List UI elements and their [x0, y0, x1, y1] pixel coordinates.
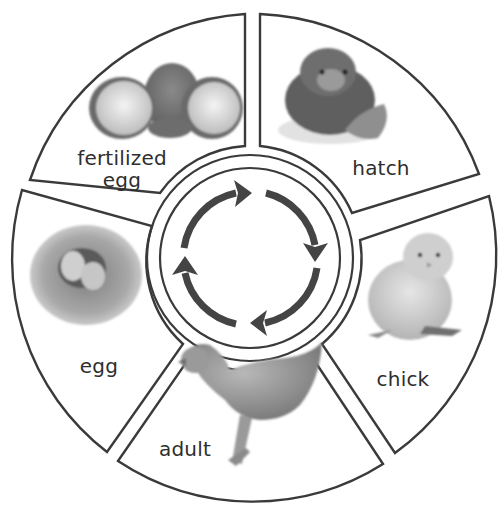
- stage-label-chick: chick: [370, 368, 436, 390]
- clockwise-cycle-arrows-icon: [172, 180, 328, 336]
- stage-label-hatch: hatch: [346, 157, 416, 179]
- diagram-canvas: [0, 0, 501, 507]
- life-cycle-diagram: fertilized egg hatch chick adult egg: [0, 0, 501, 507]
- stage-label-fertilized-egg: fertilized egg: [64, 147, 180, 191]
- label-line-2: egg: [64, 169, 180, 191]
- stage-label-adult: adult: [152, 438, 218, 460]
- label-line-1: fertilized: [64, 147, 180, 169]
- stage-label-egg: egg: [66, 355, 132, 377]
- nest-with-eggs-photo: [30, 225, 142, 325]
